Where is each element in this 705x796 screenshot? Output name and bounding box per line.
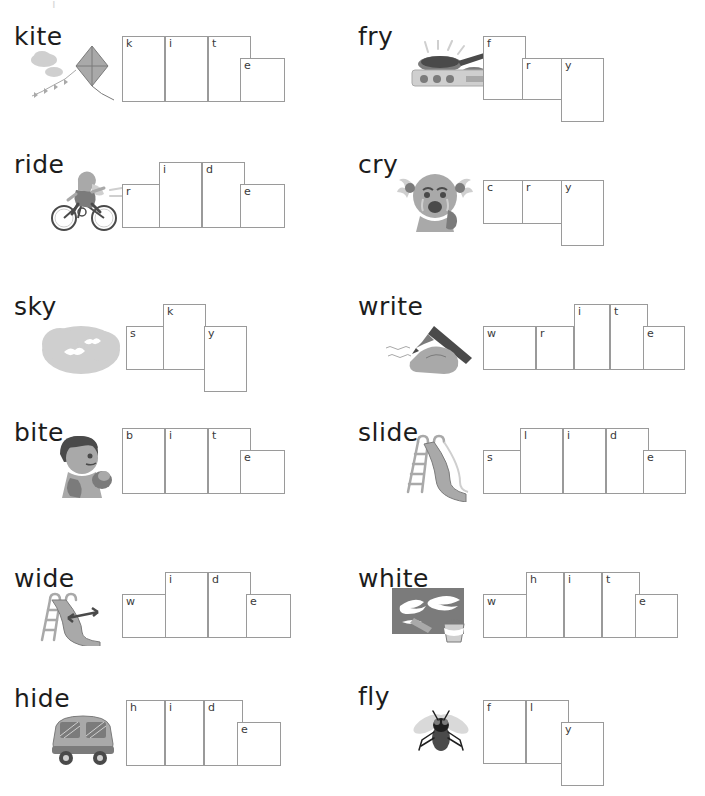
letter-box[interactable]: i (564, 572, 602, 638)
bicycle-rider-icon (48, 162, 126, 232)
letter-box[interactable]: i (159, 162, 202, 228)
letter-hint: w (126, 596, 135, 608)
letter-hint: t (606, 574, 610, 586)
letter-box[interactable]: e (643, 450, 686, 494)
letter-hint: r (540, 328, 545, 340)
letter-hint: i (163, 164, 166, 176)
letter-hint: t (212, 38, 216, 50)
letter-hint: e (244, 452, 251, 464)
letter-hint: w (487, 596, 496, 608)
letter-hint: e (647, 328, 654, 340)
child-eating-icon (50, 432, 122, 500)
kite-icon (22, 42, 122, 104)
word-label: wide (14, 566, 75, 591)
letter-box[interactable]: e (246, 594, 291, 638)
letter-hint: y (208, 328, 215, 340)
letter-box[interactable]: i (563, 428, 606, 494)
letter-hint: b (126, 430, 133, 442)
word-label: cry (358, 152, 398, 177)
letter-hint: t (212, 430, 216, 442)
letter-hint: k (167, 306, 173, 318)
car-icon (44, 710, 122, 766)
letter-box[interactable]: i (165, 36, 208, 102)
letter-box[interactable]: k (163, 304, 206, 370)
letter-box[interactable]: y (561, 58, 604, 122)
letter-hint: l (530, 702, 533, 714)
letter-hint: f (487, 38, 491, 50)
letter-hint: e (639, 596, 646, 608)
letter-box[interactable]: h (526, 572, 564, 638)
letter-hint: s (487, 452, 493, 464)
letter-hint: e (250, 596, 257, 608)
playground-slide-icon (400, 430, 480, 502)
letter-hint: e (647, 452, 654, 464)
letter-hint: i (169, 702, 172, 714)
letter-box[interactable]: l (520, 428, 563, 494)
letter-box[interactable]: e (635, 594, 678, 638)
letter-hint: d (610, 430, 617, 442)
letter-hint: t (614, 306, 618, 318)
letter-hint: y (565, 724, 572, 736)
letter-hint: y (565, 60, 572, 72)
letter-box[interactable]: i (165, 428, 208, 494)
letter-box[interactable]: i (165, 572, 208, 638)
letter-box[interactable]: y (561, 722, 604, 786)
letter-hint: i (169, 430, 172, 442)
letter-hint: w (487, 328, 496, 340)
letter-hint: d (206, 164, 213, 176)
letter-hint: d (208, 702, 215, 714)
letter-box[interactable]: f (483, 36, 526, 100)
letter-box[interactable]: y (561, 180, 604, 246)
letter-box[interactable]: e (237, 722, 281, 766)
letter-hint: l (524, 430, 527, 442)
letter-box[interactable]: e (643, 326, 685, 370)
letter-box[interactable]: d (208, 572, 251, 638)
letter-hint: y (565, 182, 572, 194)
letter-hint: i (169, 38, 172, 50)
crying-child-icon (396, 162, 474, 236)
letter-box[interactable]: c (483, 180, 526, 224)
letter-box[interactable]: e (240, 184, 285, 228)
wide-slide-icon (36, 590, 122, 646)
letter-hint: i (567, 430, 570, 442)
letter-hint: s (130, 328, 136, 340)
letter-box[interactable]: f (483, 700, 526, 764)
letter-hint: e (241, 724, 248, 736)
letter-box[interactable]: r (522, 58, 565, 100)
letter-box[interactable]: r (536, 326, 574, 370)
cloud-birds-icon (40, 318, 122, 378)
writing-hand-icon (382, 322, 478, 376)
letter-box[interactable]: e (240, 450, 285, 494)
word-label: hide (14, 686, 70, 711)
letter-hint: c (487, 182, 493, 194)
letter-box[interactable]: w (483, 594, 531, 638)
word-label: fly (358, 684, 390, 709)
letter-box[interactable]: e (240, 58, 285, 102)
word-label: sky (14, 294, 57, 319)
word-label: write (358, 294, 423, 319)
letter-box[interactable]: r (522, 180, 565, 224)
letter-hint: i (169, 574, 172, 586)
letter-box[interactable]: d (202, 162, 245, 228)
letter-box[interactable]: i (574, 304, 610, 370)
letter-hint: e (244, 60, 251, 72)
letter-box[interactable]: y (204, 326, 247, 392)
word-label: fry (358, 24, 393, 49)
letter-hint: h (130, 702, 137, 714)
letter-hint: i (568, 574, 571, 586)
letter-box[interactable]: k (122, 36, 165, 102)
letter-box[interactable]: h (126, 700, 165, 766)
worksheet-page: i kite kitefry (0, 0, 705, 796)
letter-hint: f (487, 702, 491, 714)
fly-insect-icon (408, 708, 472, 758)
letter-hint: r (526, 60, 531, 72)
letter-box[interactable]: w (483, 326, 536, 370)
letter-hint: r (526, 182, 531, 194)
letter-box[interactable]: w (122, 594, 170, 638)
letter-box[interactable]: b (122, 428, 165, 494)
letter-box[interactable]: i (165, 700, 204, 766)
white-paint-icon (392, 588, 474, 644)
letter-hint: e (244, 186, 251, 198)
letter-hint: k (126, 38, 132, 50)
letter-hint: r (126, 186, 131, 198)
